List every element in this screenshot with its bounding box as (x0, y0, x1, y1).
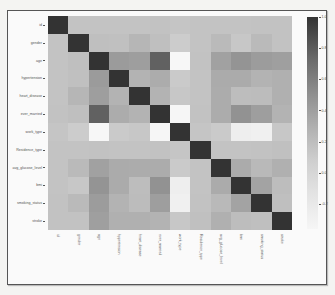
heatmap-cell: 0 (48, 34, 68, 52)
heatmap-cell: 0.17 (211, 70, 231, 88)
heatmap-cell: 0.26 (129, 52, 149, 70)
heatmap-cell: -0.03 (170, 87, 190, 105)
x-tick-label: hypertension (117, 234, 121, 255)
heatmap-cell: 0.05 (251, 87, 271, 105)
heatmap-cell: -0.36 (89, 123, 109, 141)
colorbar-tick-label: 0.2 (319, 140, 327, 144)
heatmap-cell: 0 (190, 70, 210, 88)
heatmap-cell: 0.24 (211, 52, 231, 70)
heatmap-cell: 0.04 (272, 177, 292, 195)
heatmap-cell: -0.05 (170, 70, 190, 88)
heatmap-cell: 0 (211, 16, 231, 34)
x-tick-label: work_type (178, 234, 182, 250)
heatmap-cell: 0.13 (272, 87, 292, 105)
heatmap-cell: 0.26 (251, 105, 271, 123)
heatmap-cell: -0.01 (48, 123, 68, 141)
y-tick-label: hypertension (21, 76, 45, 80)
heatmap-cell: 0.09 (68, 87, 88, 105)
heatmap-cell: 0.34 (150, 177, 170, 195)
x-tick-label: heart_disease (138, 234, 142, 257)
heatmap-cell: 0.02 (272, 141, 292, 159)
x-tick-label: ever_married (158, 234, 162, 255)
heatmap-cell: -0.35 (150, 123, 170, 141)
heatmap-cell: 0.04 (231, 212, 251, 230)
y-tick-label: gender (31, 41, 45, 45)
heatmap-cell: 0.03 (68, 52, 88, 70)
heatmap-cell: -0.05 (109, 123, 129, 141)
x-tick-label: smoking_status (260, 234, 264, 259)
heatmap-cell: 0.17 (231, 70, 251, 88)
heatmap-cell: -0.06 (68, 123, 88, 141)
x-tick-label: stroke (280, 234, 284, 244)
heatmap-cell: 0.03 (150, 34, 170, 52)
heatmap-cell: 1 (170, 123, 190, 141)
heatmap-cell: 0 (48, 177, 68, 195)
heatmap-cell: 1 (272, 212, 292, 230)
x-tick-label: Residence_type (199, 234, 203, 260)
heatmap-cell: 0.17 (231, 159, 251, 177)
y-tick-label: Residence_type (16, 148, 45, 152)
heatmap-cell: 0.02 (109, 34, 129, 52)
heatmap-cell: -0.06 (170, 34, 190, 52)
heatmap-cell: 0.02 (190, 212, 210, 230)
heatmap-cell: 0.01 (272, 16, 292, 34)
heatmap-cell: 0 (190, 16, 210, 34)
heatmap-cell: -0.03 (129, 123, 149, 141)
heatmap-cell: 0.11 (272, 105, 292, 123)
heatmap-cell: 0 (109, 16, 129, 34)
heatmap-cell: 0.34 (231, 105, 251, 123)
heatmap-cell: 0.16 (150, 70, 170, 88)
heatmap-cell: 0.13 (211, 212, 231, 230)
heatmap-cell: -0.3 (231, 123, 251, 141)
heatmap-cell: 0.07 (251, 159, 271, 177)
heatmap-cell: 0.03 (89, 34, 109, 52)
heatmap-cell: 0.11 (150, 87, 170, 105)
colorbar-tick-label: 0.0 (319, 171, 327, 175)
heatmap-cell: 0.01 (190, 105, 210, 123)
heatmap-cell: 0.27 (89, 194, 109, 212)
heatmap-cell: -0.31 (170, 194, 190, 212)
heatmap-cell: 0 (190, 159, 210, 177)
heatmap-cell: 0.26 (89, 87, 109, 105)
heatmap-cell: 0 (231, 16, 251, 34)
heatmap-cell: -0.36 (170, 52, 190, 70)
heatmap-cell: -0.05 (170, 159, 190, 177)
y-tick-label: avg_glucose_level (12, 166, 45, 170)
heatmap-cell: 0.26 (150, 194, 170, 212)
heatmap-cell: 0.13 (272, 70, 292, 88)
heatmap-cell: 1 (231, 177, 251, 195)
x-tick-label: bmi (239, 234, 243, 240)
heatmap-cell: 0 (48, 141, 68, 159)
heatmap-cell: 0.16 (129, 159, 149, 177)
heatmap-cell: 0.01 (190, 52, 210, 70)
heatmap-cell: 0 (68, 141, 88, 159)
y-tick-label: work_type (26, 130, 45, 134)
colorbar (307, 17, 318, 229)
heatmap-cell: 0 (48, 87, 68, 105)
heatmap-cell: 0 (211, 141, 231, 159)
heatmap-cell: 0.06 (211, 34, 231, 52)
y-tick-label: heart_disease (19, 94, 45, 98)
heatmap-cell: 0.01 (48, 105, 68, 123)
heatmap-cell: 1 (48, 16, 68, 34)
heatmap-cell: -0.31 (251, 123, 271, 141)
y-tick-label: smoking_status (17, 201, 45, 205)
heatmap-cell: 0.27 (251, 52, 271, 70)
colorbar-tick-label: 0.4 (319, 109, 327, 113)
heatmap-cell: 0.17 (211, 177, 231, 195)
heatmap-cell: 0.06 (251, 34, 271, 52)
heatmap-cell: -0.03 (68, 177, 88, 195)
heatmap-grid: 100000.01-0.010000.010.01010.030.020.090… (48, 16, 292, 230)
heatmap-cell: 0.33 (231, 52, 251, 70)
heatmap-cell: 0.28 (89, 70, 109, 88)
heatmap-cell: 0.16 (150, 159, 170, 177)
colorbar-tick-label: 0.8 (319, 46, 327, 50)
heatmap-cell: 0.11 (251, 70, 271, 88)
heatmap-cell: -0.01 (170, 141, 190, 159)
heatmap-cell: 0 (129, 16, 149, 34)
heatmap-cell: 0.16 (211, 105, 231, 123)
heatmap-cell: 0.07 (211, 194, 231, 212)
heatmap-cell: -0.03 (231, 34, 251, 52)
y-tick-label: age (36, 59, 45, 63)
heatmap-cell: 0 (190, 34, 210, 52)
